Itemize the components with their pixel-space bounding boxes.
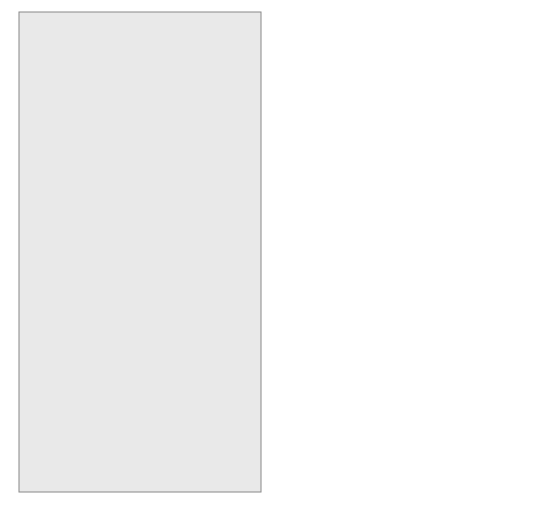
figure-panel bbox=[19, 12, 261, 492]
diagram-canvas bbox=[0, 0, 544, 513]
